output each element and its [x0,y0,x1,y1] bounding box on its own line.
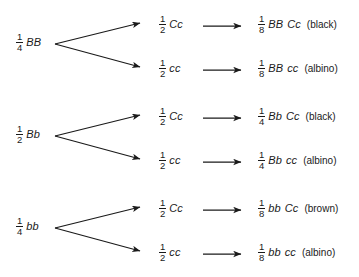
fraction-denominator: 2 [159,160,166,171]
fraction-numerator: 1 [258,150,265,160]
fraction: 1 2 [159,58,166,79]
fraction-denominator: 2 [159,24,166,35]
phenotype-text: (black) [306,111,336,122]
fraction-numerator: 1 [159,242,166,252]
fraction: 1 8 [258,242,265,263]
fraction-denominator: 8 [258,68,265,79]
outcome-label: 1 4 Bb Cc (black) [258,106,336,127]
gamete-genotype-label: 1 2 cc [159,58,181,79]
gamete-genotype-label: 1 2 Cc [159,106,183,127]
fraction-numerator: 1 [159,58,166,68]
fraction-numerator: 1 [258,58,265,68]
fraction-denominator: 8 [258,252,265,263]
fraction-numerator: 1 [258,198,265,208]
fraction: 1 4 [16,216,23,237]
fraction: 1 2 [159,198,166,219]
genotype-text: bb [26,220,38,232]
gamete-genotype-label: 1 2 Cc [159,14,183,35]
fraction: 1 2 [159,14,166,35]
genotype-text: cc [169,246,180,258]
branch-arrow-down [55,44,140,67]
genotype-text: cc [169,154,180,166]
branch-arrow-down [55,136,140,159]
fraction-denominator: 8 [258,208,265,219]
probability-branch-diagram: 1 4 BB 1 2 Cc 1 2 cc 1 8 BB Cc [0,0,359,277]
parent-genotype-label: 1 2 Bb [16,124,40,145]
fraction: 1 4 [258,150,265,171]
fraction-denominator: 2 [159,252,166,263]
genotype-text: Cc [287,18,301,30]
gamete-genotype-label: 1 2 Cc [159,198,183,219]
fraction-numerator: 1 [16,216,23,226]
fraction-denominator: 8 [258,24,265,35]
fraction-denominator: 4 [258,116,265,127]
genotype-text: Cc [169,110,183,122]
parent-genotype-label: 1 4 bb [16,216,39,237]
phenotype-text: (albino) [302,247,335,258]
genotype-text: bb [268,202,280,214]
parent-genotype-label: 1 4 BB [16,32,41,53]
outcome-label: 1 4 Bb cc (albino) [258,150,337,171]
genotype-text: cc [286,154,297,166]
genotype-text: BB [268,18,283,30]
branch-group: 1 2 Bb 1 2 Cc 1 2 cc 1 4 Bb Cc [0,92,359,184]
outcome-label: 1 8 bb cc (albino) [258,242,335,263]
branch-group: 1 4 BB 1 2 Cc 1 2 cc 1 8 BB Cc [0,0,359,92]
fraction: 1 2 [159,150,166,171]
branch-arrow-up [55,23,140,44]
genotype-text: Cc [285,202,299,214]
fraction-numerator: 1 [258,14,265,24]
genotype-text: Bb [268,110,282,122]
phenotype-text: (albino) [303,155,336,166]
fraction: 1 8 [258,58,265,79]
gamete-genotype-label: 1 2 cc [159,242,181,263]
genotype-text: cc [169,62,180,74]
genotype-text: Cc [169,202,183,214]
fraction: 1 2 [159,106,166,127]
genotype-text: BB [26,36,41,48]
fraction: 1 2 [159,242,166,263]
genotype-text: Cc [169,18,183,30]
fraction: 1 8 [258,14,265,35]
genotype-text: cc [287,62,298,74]
phenotype-text: (albino) [304,63,337,74]
fraction: 1 4 [258,106,265,127]
genotype-text: Bb [268,154,282,166]
genotype-text: BB [268,62,283,74]
fraction-numerator: 1 [159,14,166,24]
genotype-text: Cc [286,110,300,122]
phenotype-text: (black) [307,19,337,30]
fraction-denominator: 2 [159,68,166,79]
genotype-text: bb [268,246,280,258]
fraction-denominator: 4 [258,160,265,171]
branch-group: 1 4 bb 1 2 Cc 1 2 cc 1 8 bb Cc [0,184,359,277]
genotype-text: cc [285,246,296,258]
fraction-denominator: 2 [16,134,23,145]
fraction: 1 2 [16,124,23,145]
phenotype-text: (brown) [304,203,338,214]
fraction-denominator: 2 [159,116,166,127]
fraction-numerator: 1 [258,106,265,116]
fraction: 1 8 [258,198,265,219]
outcome-label: 1 8 bb Cc (brown) [258,198,338,219]
outcome-label: 1 8 BB cc (albino) [258,58,338,79]
branch-arrow-up [55,207,140,228]
fraction-numerator: 1 [16,124,23,134]
fraction-denominator: 4 [16,42,23,53]
genotype-text: Bb [26,128,40,140]
fraction-numerator: 1 [159,150,166,160]
fraction-denominator: 2 [159,208,166,219]
gamete-genotype-label: 1 2 cc [159,150,181,171]
branch-arrow-down [55,228,140,251]
fraction-numerator: 1 [16,32,23,42]
fraction: 1 4 [16,32,23,53]
fraction-numerator: 1 [159,198,166,208]
outcome-label: 1 8 BB Cc (black) [258,14,337,35]
fraction-numerator: 1 [258,242,265,252]
branch-arrow-up [55,115,140,136]
fraction-numerator: 1 [159,106,166,116]
fraction-denominator: 4 [16,226,23,237]
